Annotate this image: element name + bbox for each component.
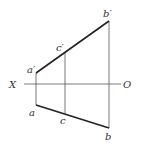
line-a-b	[36, 105, 109, 128]
label-c-prime: c′	[56, 42, 65, 53]
projection-diagram: X O a′ c′ b′ a c b	[0, 0, 141, 147]
line-a-prime-b-prime	[36, 21, 109, 73]
label-b: b	[105, 131, 111, 142]
axis-label-o: O	[123, 79, 131, 90]
axis-label-x: X	[8, 79, 17, 90]
label-c: c	[60, 115, 66, 126]
label-b-prime: b′	[103, 8, 112, 19]
label-a-prime: a′	[27, 64, 36, 75]
label-a: a	[29, 107, 35, 118]
